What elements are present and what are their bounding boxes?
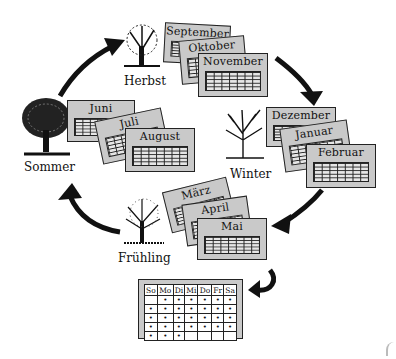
day-header: Mi: [185, 285, 198, 296]
month-title: Juni: [68, 102, 134, 115]
day-cell-marked: [198, 314, 212, 323]
day-header: Di: [173, 285, 184, 296]
month-card-februar: Februar: [306, 144, 376, 188]
day-cell-empty: [185, 332, 198, 341]
day-cell-marked: [157, 305, 173, 314]
week-calendar: So Mo Di Mi Do Fr Sa: [138, 279, 243, 339]
day-header: Do: [198, 285, 212, 296]
arrow-fruehling-to-sommer: [58, 183, 120, 232]
day-cell-empty: [212, 332, 224, 341]
month-card-november: November: [198, 53, 268, 97]
day-cell-marked: [157, 314, 173, 323]
day-cell-marked: [173, 305, 184, 314]
day-cell-empty: [224, 332, 237, 341]
day-cell-marked: [145, 323, 158, 332]
month-grid: [313, 162, 369, 182]
day-header: Sa: [224, 285, 237, 296]
arrow-herbst-to-winter: [276, 58, 323, 106]
season-label-sommer: Sommer: [24, 160, 75, 174]
day-cell-empty: [145, 296, 158, 305]
day-cell-marked: [145, 305, 158, 314]
day-cell-marked: [185, 314, 198, 323]
day-cell-marked: [212, 314, 224, 323]
winter-tree-icon: [222, 104, 266, 160]
day-cell-marked: [157, 332, 173, 341]
month-title: August: [126, 130, 194, 143]
month-title: Mai: [198, 220, 266, 233]
day-cell-marked: [157, 296, 173, 305]
day-cell-empty: [198, 332, 212, 341]
day-cell-marked: [173, 323, 184, 332]
arrow-to-week-calendar: [248, 270, 274, 298]
season-label-herbst: Herbst: [124, 74, 166, 88]
day-cell-marked: [224, 314, 237, 323]
day-cell-marked: [224, 305, 237, 314]
month-title: Dezember: [267, 109, 335, 122]
day-header: Mo: [157, 285, 173, 296]
month-title: Februar: [307, 146, 375, 159]
week-row: [145, 305, 237, 314]
day-cell-marked: [157, 323, 173, 332]
week-row: [145, 323, 237, 332]
day-cell-marked: [173, 314, 184, 323]
day-cell-marked: [224, 323, 237, 332]
day-header: So: [145, 285, 158, 296]
month-card-august: August: [125, 128, 195, 172]
season-label-winter: Winter: [230, 167, 271, 181]
day-cell-marked: [185, 323, 198, 332]
day-cell-marked: [185, 296, 198, 305]
month-title: November: [199, 55, 267, 68]
week-calendar-table: So Mo Di Mi Do Fr Sa: [144, 284, 237, 341]
week-calendar-body: [145, 296, 237, 341]
corner-mark: [386, 342, 394, 356]
summer-tree-icon: [20, 96, 72, 158]
arrow-winter-to-fruehling: [271, 190, 322, 234]
day-cell-marked: [145, 332, 158, 341]
month-card-mai: Mai: [197, 218, 267, 260]
week-calendar-header: So Mo Di Mi Do Fr Sa: [145, 285, 237, 296]
week-row: [145, 314, 237, 323]
day-cell-marked: [212, 305, 224, 314]
day-cell-marked: [212, 323, 224, 332]
month-grid: [205, 71, 261, 91]
day-cell-marked: [145, 314, 158, 323]
week-row: [145, 332, 237, 341]
month-grid: [204, 236, 260, 254]
season-cycle-diagram: Herbst Winter Frühling Sommer September …: [0, 0, 396, 359]
day-cell-marked: [198, 296, 212, 305]
arrow-sommer-to-herbst: [60, 38, 125, 96]
spring-tree-icon: [120, 195, 166, 247]
week-row: [145, 296, 237, 305]
day-cell-marked: [173, 332, 184, 341]
day-cell-marked: [185, 305, 198, 314]
day-cell-marked: [212, 296, 224, 305]
autumn-tree-icon: [118, 22, 166, 70]
day-header: Fr: [212, 285, 224, 296]
month-grid: [132, 146, 188, 166]
day-cell-marked: [173, 296, 184, 305]
season-label-fruehling: Frühling: [118, 251, 171, 265]
day-cell-marked: [224, 296, 237, 305]
day-cell-marked: [198, 323, 212, 332]
day-cell-marked: [198, 305, 212, 314]
